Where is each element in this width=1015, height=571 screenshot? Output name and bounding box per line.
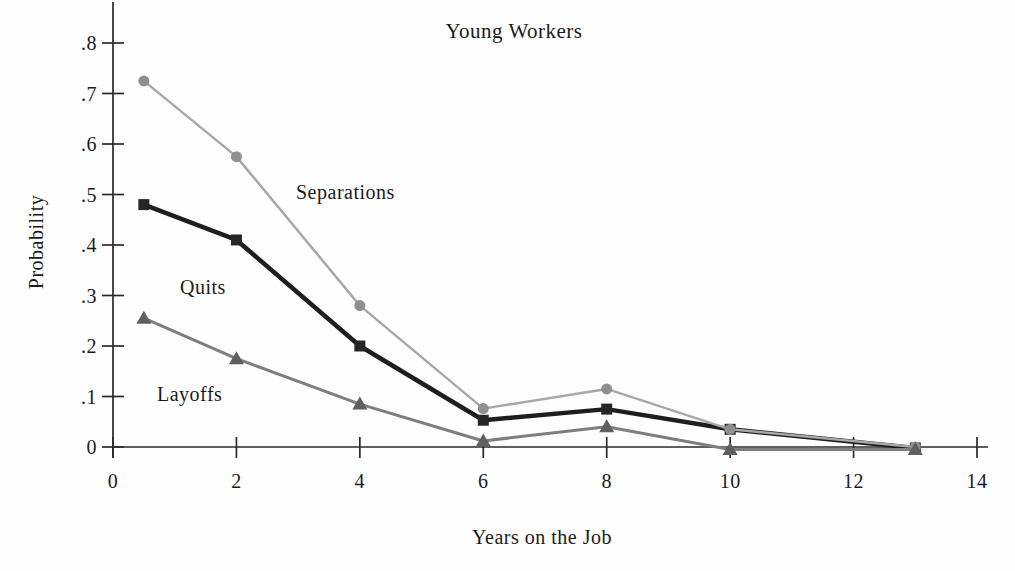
marker-triangle-layoffs [136, 311, 151, 324]
series-line-layoffs [144, 318, 915, 449]
x-tick-label: 14 [967, 470, 988, 492]
marker-circle-separations [231, 151, 242, 162]
x-tick-label: 10 [720, 470, 741, 492]
y-tick-label: .6 [81, 133, 97, 155]
y-tick-label: .1 [81, 386, 97, 408]
marker-triangle-layoffs [599, 419, 614, 432]
x-tick-label: 4 [355, 470, 366, 492]
figure: 0.1.2.3.4.5.6.7.802468101214 Young Worke… [0, 0, 1015, 571]
marker-circle-separations [138, 75, 149, 86]
marker-circle-separations [354, 300, 365, 311]
x-tick-label: 0 [108, 470, 119, 492]
marker-circle-separations [725, 424, 736, 435]
marker-square-quits [601, 404, 612, 415]
y-tick-label: .2 [81, 335, 97, 357]
x-tick-label: 8 [601, 470, 612, 492]
y-tick-label: 0 [87, 436, 98, 458]
x-axis-label: Years on the Job [472, 526, 612, 549]
x-tick-label: 6 [478, 470, 489, 492]
series-label-layoffs: Layoffs [157, 383, 222, 406]
marker-square-quits [231, 234, 242, 245]
marker-square-quits [138, 199, 149, 210]
chart-title: Young Workers [445, 19, 582, 44]
marker-square-quits [478, 415, 489, 426]
marker-square-quits [354, 341, 365, 352]
y-tick-label: .3 [81, 285, 97, 307]
y-axis-label: Probability [25, 195, 48, 289]
y-tick-label: .8 [81, 32, 97, 54]
x-tick-label: 12 [843, 470, 864, 492]
x-tick-label: 2 [231, 470, 242, 492]
y-tick-label: .5 [81, 184, 97, 206]
series-label-separations: Separations [296, 181, 395, 204]
series-line-separations [144, 81, 915, 447]
chart-canvas: 0.1.2.3.4.5.6.7.802468101214 [0, 0, 1015, 571]
y-tick-label: .4 [81, 234, 97, 256]
series-label-quits: Quits [180, 276, 226, 299]
marker-circle-separations [601, 383, 612, 394]
y-tick-label: .7 [81, 83, 97, 105]
marker-circle-separations [478, 403, 489, 414]
series-line-quits [144, 205, 915, 448]
